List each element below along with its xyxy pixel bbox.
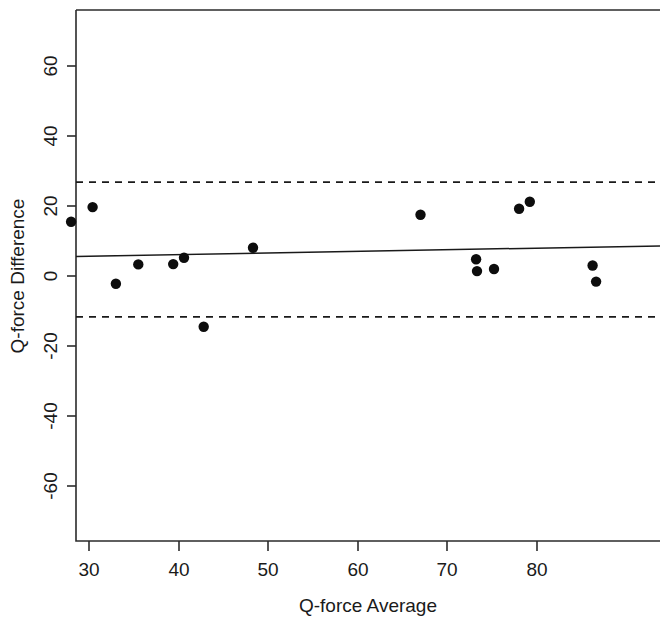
data-point bbox=[66, 217, 76, 227]
x-tick-label-70: 70 bbox=[436, 559, 457, 580]
x-axis-title: Q-force Average bbox=[299, 595, 437, 616]
data-point bbox=[248, 243, 258, 253]
data-point bbox=[111, 279, 121, 289]
x-tick-label-50: 50 bbox=[257, 559, 278, 580]
y-axis-title: Q-force Difference bbox=[7, 199, 28, 354]
data-point bbox=[489, 264, 499, 274]
data-point bbox=[471, 254, 481, 264]
data-point bbox=[415, 210, 425, 220]
data-point bbox=[87, 202, 97, 212]
x-axis-ticks bbox=[89, 541, 537, 551]
y-tick-label-neg40: -40 bbox=[40, 402, 61, 429]
plot-frame bbox=[76, 10, 660, 541]
data-point bbox=[179, 253, 189, 263]
x-tick-label-80: 80 bbox=[526, 559, 547, 580]
y-tick-label-40: 40 bbox=[40, 125, 61, 146]
y-tick-label-neg60: -60 bbox=[40, 472, 61, 499]
y-axis-tick-labels: 60 40 20 0 -20 -40 -60 bbox=[40, 55, 61, 499]
regression-line bbox=[76, 246, 660, 257]
x-tick-label-60: 60 bbox=[347, 559, 368, 580]
data-point bbox=[591, 276, 601, 286]
data-point bbox=[199, 322, 209, 332]
x-tick-label-30: 30 bbox=[78, 559, 99, 580]
x-tick-label-40: 40 bbox=[168, 559, 189, 580]
plot-series-group bbox=[66, 182, 660, 332]
data-point bbox=[133, 259, 143, 269]
y-tick-label-20: 20 bbox=[40, 195, 61, 216]
y-axis-ticks bbox=[67, 66, 76, 486]
scatter-plot-canvas: 60 40 20 0 -20 -40 -60 30 40 50 60 70 80 bbox=[0, 0, 660, 624]
data-point bbox=[587, 260, 597, 270]
y-tick-label-60: 60 bbox=[40, 55, 61, 76]
data-point bbox=[525, 197, 535, 207]
data-point bbox=[514, 204, 524, 214]
y-tick-label-0: 0 bbox=[40, 271, 61, 282]
bland-altman-figure: 60 40 20 0 -20 -40 -60 30 40 50 60 70 80 bbox=[0, 0, 660, 624]
data-point bbox=[168, 259, 178, 269]
x-axis-tick-labels: 30 40 50 60 70 80 bbox=[78, 559, 547, 580]
data-point bbox=[472, 266, 482, 276]
y-tick-label-neg20: -20 bbox=[40, 332, 61, 359]
